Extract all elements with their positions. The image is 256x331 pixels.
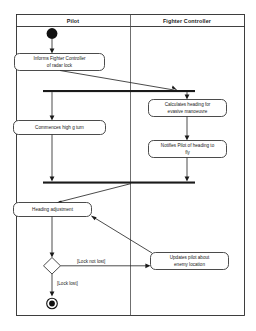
arrowhead-calculates-to-notifies: [185, 135, 190, 140]
arrowhead-heading-adjustment-to-decision: [50, 252, 55, 257]
arrowhead-updates-pilot-to-heading-adjustment: [91, 216, 97, 221]
swimlane-title-fighter-controller: Fighter Controller: [163, 18, 212, 24]
guard-label-lock-lost: [Lock lost]: [57, 281, 78, 286]
swimlane-title-pilot: Pilot: [67, 18, 79, 24]
join-bar-2[interactable]: [43, 182, 195, 184]
activity-diagram-canvas: Pilot Fighter Controller Informs Fighter…: [0, 0, 256, 331]
activity-notifies-pilot-label-line1: Notifies Pilot of heading to: [161, 143, 215, 148]
activity-commences-high-g-turn-label: Commences high g turn: [35, 125, 84, 130]
flow-join-to-heading-adjustment: [59, 184, 131, 202]
arrowhead-fork-to-commences-turn: [50, 115, 55, 120]
arrowhead-decision-to-updates-pilot: [145, 263, 150, 268]
activity-informs-fighter-controller-label-line2: of radar lock: [47, 63, 73, 68]
arrowhead-fork-to-calculates-heading: [185, 94, 190, 99]
activity-updates-pilot-label-line1: Updates pilot about: [170, 255, 210, 260]
flow-updates-pilot-to-heading-adjustment: [94, 218, 152, 254]
activity-calculates-heading-label-line1: Calculates heading for: [165, 102, 211, 107]
final-node-inner-dot: [49, 301, 55, 307]
fork-bar-1[interactable]: [43, 90, 195, 92]
activity-calculates-heading-label-line2: evasive manoeuvre: [168, 109, 208, 114]
arrowhead-commences-to-join: [50, 176, 55, 181]
activity-notifies-pilot-label-line2: fly: [185, 150, 190, 155]
guard-label-lock-not-lost: [Lock not lost]: [77, 259, 105, 264]
arrowhead-notifies-to-join: [185, 176, 190, 181]
uml-activity-diagram: Pilot Fighter Controller Informs Fighter…: [0, 0, 256, 331]
initial-node[interactable]: [47, 28, 58, 39]
arrowhead-decision-to-final: [50, 291, 55, 296]
decision-node-lock-status[interactable]: [44, 258, 61, 275]
flow-informs-to-fork: [60, 71, 174, 91]
arrowhead-start-to-informs: [50, 48, 55, 53]
activity-updates-pilot-label-line2: enemy location: [174, 262, 205, 267]
activity-informs-fighter-controller-label-line1: Informs Fighter Controller: [33, 56, 86, 61]
activity-heading-adjustment-label: Heading adjustment: [32, 207, 74, 212]
